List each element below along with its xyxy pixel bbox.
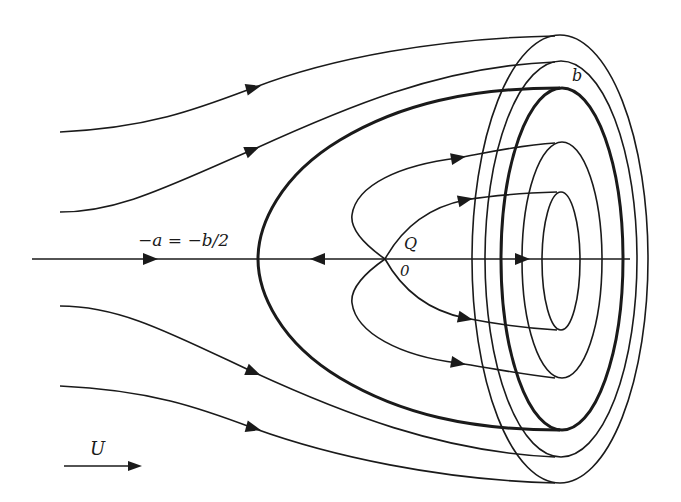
arrowhead-icon-inner-upper-inner bbox=[457, 192, 474, 207]
arrowhead-icon-outer-top bbox=[245, 80, 263, 95]
label-a-equals-b-half: −a = −b/2 bbox=[138, 232, 229, 249]
arrowhead-icon-inner-upper-outer bbox=[450, 151, 467, 165]
label-free-stream-u: U bbox=[90, 440, 105, 458]
ellipse-second bbox=[522, 142, 602, 378]
arrowhead-icon-outer-bottom bbox=[245, 420, 263, 435]
arrowhead-icon-axis-inflow bbox=[143, 253, 158, 265]
ellipse-inner bbox=[542, 192, 580, 330]
arrowhead-icon-second-bottom bbox=[244, 364, 262, 381]
arrowhead-icon-second-top bbox=[243, 141, 261, 158]
arrowhead-icon-inner-lower-inner bbox=[457, 311, 474, 326]
arrowhead-icon-axis-reverse bbox=[310, 253, 325, 265]
streamline-second-top bbox=[60, 62, 555, 212]
label-b: b bbox=[572, 68, 582, 84]
streamline-outer-top bbox=[60, 36, 555, 132]
arrowhead-icon-inner-lower-outer bbox=[450, 356, 467, 370]
free-stream-velocity-arrow-icon bbox=[64, 461, 142, 471]
label-source-strength-q: Q bbox=[404, 236, 417, 252]
streamline-second-bottom bbox=[60, 306, 555, 457]
label-origin: 0 bbox=[400, 264, 410, 279]
